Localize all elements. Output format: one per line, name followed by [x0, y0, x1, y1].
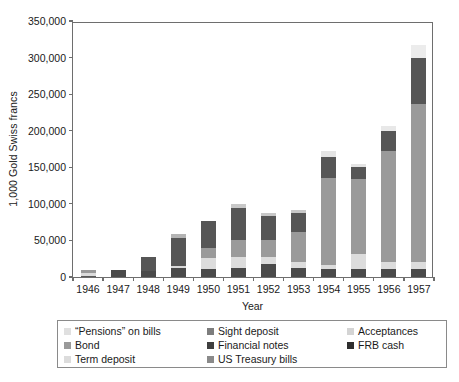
legend-label: Sight deposit [218, 325, 279, 337]
y-tick-label: 100,000 [28, 197, 66, 211]
bar-1946[interactable] [81, 270, 96, 277]
bar-segment [321, 157, 336, 178]
legend-swatch-icon [347, 328, 354, 335]
legend-item[interactable]: Acceptances [347, 325, 440, 337]
legend-item[interactable]: Term deposit [64, 353, 207, 365]
bar-segment [171, 238, 186, 266]
bar-1952[interactable] [261, 213, 276, 277]
bar-1951[interactable] [231, 204, 246, 277]
legend-item[interactable]: US Treasury bills [207, 353, 347, 365]
legend-swatch-icon [207, 356, 214, 363]
x-tick-label: 1950 [197, 283, 220, 295]
bar-segment [201, 258, 216, 269]
y-tick-mark [69, 94, 73, 95]
bar-segment [291, 232, 306, 262]
bar-segment [351, 254, 366, 269]
bar-segment [81, 276, 96, 277]
x-tick-mark [72, 277, 73, 281]
legend-item[interactable]: “Pensions” on bills [64, 325, 207, 337]
bar-segment [261, 257, 276, 264]
x-axis-title-text: Year [242, 300, 263, 312]
bar-segment [261, 264, 276, 277]
bar-segment [321, 178, 336, 264]
legend-swatch-icon [64, 328, 71, 335]
bar-segment [141, 271, 156, 277]
x-tick-mark [163, 277, 164, 281]
bar-1947[interactable] [111, 270, 126, 277]
y-tick-mark [69, 167, 73, 168]
bar-segment [231, 240, 246, 257]
plot-area: 050,000100,000150,000200,000250,000300,0… [72, 22, 433, 278]
x-tick-label: 1952 [257, 283, 280, 295]
legend-item[interactable]: Financial notes [207, 339, 347, 351]
bar-segment [381, 131, 396, 151]
y-tick-mark [69, 130, 73, 131]
x-tick-mark [193, 277, 194, 281]
x-tick-mark [343, 277, 344, 281]
legend-label: Term deposit [75, 353, 135, 365]
bar-segment [201, 248, 216, 258]
legend-item[interactable]: Bond [64, 339, 207, 351]
legend-label: US Treasury bills [218, 353, 297, 365]
y-axis-title-text: 1,000 Gold Swiss francs [7, 91, 19, 207]
bar-segment [201, 221, 216, 247]
x-tick-label: 1951 [227, 283, 250, 295]
bar-segment [231, 257, 246, 267]
bar-segment [351, 269, 366, 277]
x-tick-label: 1948 [137, 283, 160, 295]
legend-item[interactable]: Sight deposit [207, 325, 347, 337]
bar-segment [261, 216, 276, 240]
bar-1954[interactable] [321, 151, 336, 277]
legend-swatch-icon [347, 342, 354, 349]
bar-1953[interactable] [291, 210, 306, 277]
x-tick-mark [403, 277, 404, 281]
bar-segment [411, 58, 426, 105]
x-tick-label: 1947 [106, 283, 129, 295]
legend-grid: “Pensions” on billsSight depositAcceptan… [64, 324, 440, 366]
bar-segment [201, 269, 216, 277]
bar-segment [231, 208, 246, 240]
bar-segment [111, 270, 126, 277]
legend-swatch-icon [64, 356, 71, 363]
y-tick-label: 300,000 [28, 51, 66, 65]
bar-segment [381, 151, 396, 262]
x-tick-mark [373, 277, 374, 281]
bar-segment [411, 104, 426, 262]
y-tick-label: 50,000 [34, 233, 66, 247]
x-tick-label: 1957 [407, 283, 430, 295]
y-tick-mark [69, 20, 73, 21]
y-tick-label: 0 [60, 270, 66, 284]
x-tick-label: 1953 [287, 283, 310, 295]
bar-segment [291, 213, 306, 232]
legend-swatch-icon [207, 342, 214, 349]
bar-1948[interactable] [141, 257, 156, 277]
legend-swatch-icon [64, 342, 71, 349]
legend-item[interactable]: FRB cash [347, 339, 440, 351]
plot-inner: 050,000100,000150,000200,000250,000300,0… [73, 23, 432, 277]
bar-1957[interactable] [411, 45, 426, 277]
bar-segment [171, 268, 186, 277]
y-tick-label: 350,000 [28, 14, 66, 28]
bar-1956[interactable] [381, 126, 396, 277]
legend-label: Financial notes [218, 339, 289, 351]
legend-label: Acceptances [358, 325, 418, 337]
y-tick-label: 200,000 [28, 124, 66, 138]
bar-1950[interactable] [201, 221, 216, 277]
y-tick-label: 250,000 [28, 87, 66, 101]
bar-segment [261, 240, 276, 256]
x-tick-mark [313, 277, 314, 281]
x-tick-mark [283, 277, 284, 281]
x-axis-title: Year [72, 300, 433, 312]
chart-figure: 1,000 Gold Swiss francs 050,000100,00015… [0, 0, 459, 382]
y-tick-mark [69, 240, 73, 241]
legend-label: Bond [75, 339, 100, 351]
bar-1955[interactable] [351, 164, 366, 277]
legend-label: “Pensions” on bills [75, 325, 161, 337]
bar-segment [411, 269, 426, 277]
x-tick-label: 1955 [347, 283, 370, 295]
x-tick-mark [102, 277, 103, 281]
x-tick-mark [253, 277, 254, 281]
x-tick-label: 1949 [167, 283, 190, 295]
bar-segment [381, 262, 396, 269]
bar-1949[interactable] [171, 234, 186, 277]
